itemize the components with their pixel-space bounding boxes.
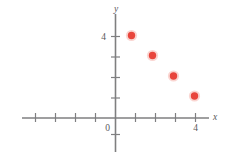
data-point xyxy=(149,52,156,59)
data-point xyxy=(128,32,135,39)
coordinate-plane-svg: 4 4 0 x y xyxy=(0,0,229,163)
x-axis-label: x xyxy=(212,112,218,122)
scatter-plot-figure: 4 4 0 x y xyxy=(0,0,229,163)
y-axis-label: y xyxy=(113,4,119,14)
data-point xyxy=(191,92,198,99)
y-axis-tick-label-4: 4 xyxy=(101,32,106,42)
origin-label: 0 xyxy=(105,123,110,133)
x-axis-tick-label-4: 4 xyxy=(193,123,198,133)
data-point xyxy=(170,72,177,79)
